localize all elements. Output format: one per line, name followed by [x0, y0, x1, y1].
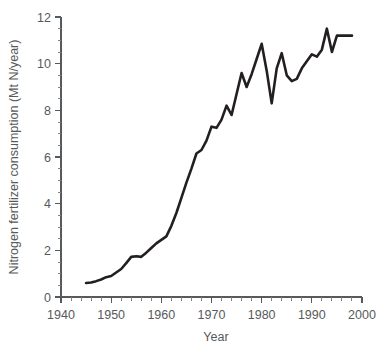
x-tick-label: 1980 [248, 308, 276, 322]
chart-background [0, 0, 381, 351]
y-tick-label: 12 [37, 11, 51, 25]
y-axis-title: Nitrogen fertilizer consumption (Mt N/ye… [7, 40, 21, 275]
x-tick-label: 2000 [348, 308, 376, 322]
line-chart: 024681012 1940195019601970198019902000 Y… [0, 0, 381, 351]
chart-figure: 024681012 1940195019601970198019902000 Y… [0, 0, 381, 351]
x-tick-label: 1990 [298, 308, 326, 322]
x-tick-label: 1950 [97, 308, 125, 322]
y-tick-label: 10 [37, 57, 51, 71]
x-tick-label: 1970 [198, 308, 226, 322]
x-tick-label: 1940 [47, 308, 75, 322]
y-tick-label: 2 [44, 244, 51, 258]
x-tick-label: 1960 [147, 308, 175, 322]
y-tick-label: 0 [44, 291, 51, 305]
y-tick-label: 8 [44, 104, 51, 118]
x-axis-title: Year [203, 330, 228, 344]
y-tick-label: 6 [44, 151, 51, 165]
y-tick-label: 4 [44, 197, 51, 211]
